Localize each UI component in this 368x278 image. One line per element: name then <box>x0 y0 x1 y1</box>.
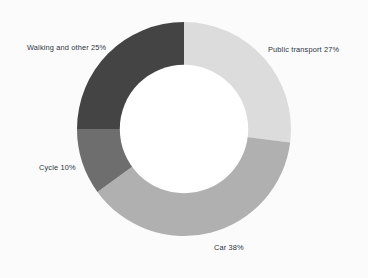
slice-label-walking-and-other: Walking and other 25% <box>27 44 106 51</box>
slice-label-public-transport: Public transport 27% <box>268 46 339 53</box>
donut-chart: Walking and other 25% Public transport 2… <box>0 0 368 278</box>
slice-label-cycle: Cycle 10% <box>39 164 76 171</box>
donut-chart-svg <box>0 0 368 278</box>
slice-label-car: Car 38% <box>214 244 244 251</box>
donut-hole <box>120 65 248 193</box>
